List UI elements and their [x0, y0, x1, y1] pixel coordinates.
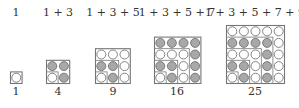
empty-dot: [228, 73, 237, 82]
filled-dot: [191, 62, 200, 71]
dot-grid-2x2: [47, 60, 70, 83]
filled-dot: [251, 38, 260, 47]
filled-dot: [239, 62, 248, 71]
empty-dot: [228, 27, 237, 36]
empty-dot: [274, 50, 283, 59]
empty-dot: [179, 50, 188, 59]
empty-dot: [179, 62, 188, 71]
empty-dot: [263, 27, 272, 36]
empty-dot: [274, 62, 283, 71]
empty-dot: [274, 73, 283, 82]
empty-dot: [274, 27, 283, 36]
empty-dot: [239, 50, 248, 59]
dot-grid-3x3: [96, 49, 131, 84]
empty-dot: [48, 73, 57, 82]
empty-dot: [274, 38, 283, 47]
filled-dot: [263, 50, 272, 59]
filled-dot: [239, 38, 248, 47]
filled-dot: [167, 38, 176, 47]
filled-dot: [167, 73, 176, 82]
empty-dot: [251, 50, 260, 59]
empty-dot: [251, 62, 260, 71]
empty-dot: [167, 50, 176, 59]
filled-dot: [239, 73, 248, 82]
filled-dot: [167, 62, 176, 71]
empty-dot: [120, 62, 129, 71]
filled-dot: [156, 38, 165, 47]
empty-dot: [97, 73, 106, 82]
empty-dot: [156, 50, 165, 59]
filled-dot: [263, 73, 272, 82]
filled-dot: [59, 73, 68, 82]
filled-dot: [156, 62, 165, 71]
filled-dot: [108, 62, 117, 71]
filled-dot: [179, 38, 188, 47]
odd-sum-diagram: [0, 0, 299, 108]
filled-dot: [48, 62, 57, 71]
empty-dot: [12, 73, 21, 82]
filled-dot: [59, 62, 68, 71]
empty-dot: [179, 73, 188, 82]
empty-dot: [228, 50, 237, 59]
empty-dot: [120, 73, 129, 82]
empty-dot: [156, 73, 165, 82]
empty-dot: [97, 50, 106, 59]
empty-dot: [239, 27, 248, 36]
dot-grid-5x5: [227, 26, 285, 84]
empty-dot: [251, 27, 260, 36]
filled-dot: [228, 62, 237, 71]
filled-dot: [191, 38, 200, 47]
filled-dot: [191, 73, 200, 82]
filled-dot: [228, 38, 237, 47]
dot-grid-4x4: [155, 37, 201, 83]
dot-grid-1x1: [11, 72, 23, 84]
empty-dot: [108, 50, 117, 59]
filled-dot: [263, 62, 272, 71]
empty-dot: [120, 50, 129, 59]
filled-dot: [191, 50, 200, 59]
filled-dot: [108, 73, 117, 82]
filled-dot: [97, 62, 106, 71]
empty-dot: [251, 73, 260, 82]
filled-dot: [263, 38, 272, 47]
